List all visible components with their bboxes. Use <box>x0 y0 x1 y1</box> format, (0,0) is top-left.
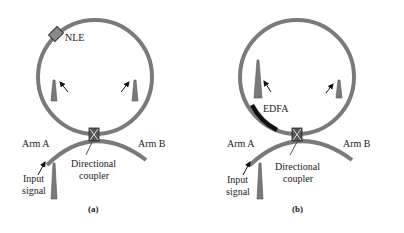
nle-label: NLE <box>65 32 84 43</box>
coupler-label-2: coupler <box>79 170 110 181</box>
arrow-cw <box>326 84 333 93</box>
coupler-label-1: Directional <box>71 158 116 169</box>
panel-b: EDFA Arm A Arm B Directional coupler Inp… <box>226 20 371 214</box>
directional-coupler <box>292 128 302 141</box>
input-label-2: signal <box>226 186 250 197</box>
input-pulse <box>257 163 263 199</box>
arrow-ccw <box>264 81 271 92</box>
edfa-label: EDFA <box>263 103 289 114</box>
pulse-right <box>132 80 138 101</box>
caption-a: (a) <box>88 204 99 214</box>
pulse-left <box>51 80 57 101</box>
panel-a: NLE Arm A Arm B Directional coupler Inpu… <box>22 20 166 214</box>
coupler-label-2: coupler <box>283 173 314 184</box>
pulse-right <box>336 80 342 98</box>
arm-b-label: Arm B <box>343 138 371 149</box>
input-pulse <box>51 163 57 199</box>
coupler-label-1: Directional <box>275 161 320 172</box>
pulse-left-amplified <box>254 60 262 98</box>
arrow-cw <box>121 82 129 92</box>
input-label-2: signal <box>22 185 46 196</box>
directional-coupler <box>89 128 99 141</box>
arm-b-label: Arm B <box>138 138 166 149</box>
arm-a-label: Arm A <box>22 138 50 149</box>
arm-a-label: Arm A <box>227 138 255 149</box>
diagram-canvas: NLE Arm A Arm B Directional coupler Inpu… <box>0 0 404 233</box>
caption-b: (b) <box>292 204 303 214</box>
input-label-1: Input <box>23 173 44 184</box>
input-label-1: Input <box>227 174 248 185</box>
arrow-ccw <box>60 82 68 92</box>
